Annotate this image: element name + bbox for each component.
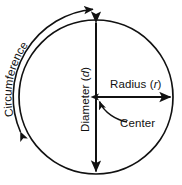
radius-label-word: Radius <box>110 78 147 90</box>
diameter-label-group: Diameter (d) <box>79 67 91 132</box>
radius-label-paren-open: ( <box>146 78 153 90</box>
diameter-label-paren-close: ) <box>79 67 91 71</box>
circle-diagram-canvas: Circumference Diameter (d) Radius (r) Ce… <box>0 0 182 185</box>
center-label: Center <box>120 117 155 129</box>
circle-diagram-figure: Circumference Diameter (d) Radius (r) Ce… <box>0 0 182 185</box>
diameter-label-word: Diameter <box>79 84 91 132</box>
diameter-label-paren-open: ( <box>79 77 91 84</box>
radius-label-paren-close: ) <box>158 78 162 90</box>
radius-label-group: Radius (r) <box>110 78 162 90</box>
